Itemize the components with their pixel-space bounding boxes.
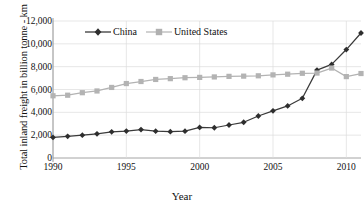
x-axis-tick-label: 1990 <box>44 162 63 172</box>
data-point-marker <box>182 75 187 80</box>
y-axis-tick-label: 12,000 <box>10 16 52 26</box>
data-point-marker <box>65 133 71 139</box>
data-point-marker <box>299 95 305 101</box>
data-point-marker <box>65 93 70 98</box>
data-point-marker <box>197 75 202 80</box>
chart-legend: China United States <box>85 26 228 37</box>
data-point-marker <box>153 128 159 134</box>
data-point-marker <box>109 85 114 90</box>
y-axis-tick-label: 10,000 <box>10 39 52 49</box>
data-point-marker <box>79 132 85 138</box>
legend-marker-china <box>85 27 111 37</box>
data-point-marker <box>94 88 99 93</box>
data-point-marker <box>329 65 334 70</box>
data-point-marker <box>211 125 217 131</box>
data-point-marker <box>285 103 291 109</box>
data-point-marker <box>153 77 158 82</box>
x-axis-tick-label: 1995 <box>117 162 136 172</box>
series-line-china <box>53 33 361 137</box>
data-point-marker <box>344 74 349 79</box>
data-point-marker <box>241 119 247 125</box>
data-point-marker <box>168 76 173 81</box>
data-point-marker <box>109 129 115 135</box>
data-point-marker <box>241 74 246 79</box>
data-point-marker <box>197 125 203 131</box>
data-point-marker <box>124 81 129 86</box>
data-point-marker <box>94 131 100 137</box>
legend-item-china: China <box>85 26 137 37</box>
x-axis-tick-label: 2000 <box>190 162 209 172</box>
data-point-marker <box>182 128 188 134</box>
legend-label-united-states: United States <box>174 26 228 37</box>
legend-marker-united-states <box>146 27 172 37</box>
chart-container: Total inland freight in billion tonne - … <box>0 0 364 203</box>
data-point-marker <box>138 79 143 84</box>
data-point-marker <box>167 129 173 135</box>
x-axis-tick-label: 2010 <box>337 162 356 172</box>
y-axis-tick-label: 6,000 <box>10 85 52 95</box>
data-point-marker <box>358 71 363 76</box>
y-axis-tick-label: 4,000 <box>10 107 52 117</box>
x-axis-tick-label: 2005 <box>264 162 283 172</box>
data-point-marker <box>300 71 305 76</box>
data-point-marker <box>212 74 217 79</box>
y-axis-tick-label: 8,000 <box>10 62 52 72</box>
data-point-marker <box>226 74 231 79</box>
data-point-marker <box>80 90 85 95</box>
data-point-marker <box>285 72 290 77</box>
x-axis-tick-labels: 19901995200020052010 <box>0 160 364 176</box>
data-point-marker <box>123 128 129 134</box>
data-point-marker <box>314 70 319 75</box>
data-point-marker <box>226 122 232 128</box>
data-point-marker <box>255 113 261 119</box>
y-axis-tick-label: 2,000 <box>10 130 52 140</box>
data-point-marker <box>270 108 276 114</box>
data-point-marker <box>270 72 275 77</box>
data-point-marker <box>256 73 261 78</box>
x-axis-title: Year <box>0 190 364 202</box>
legend-item-united-states: United States <box>146 26 228 37</box>
legend-label-china: China <box>113 26 137 37</box>
data-point-marker <box>138 127 144 133</box>
